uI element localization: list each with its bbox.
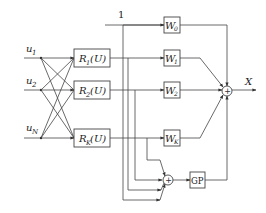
svg-text:2: 2 [31,81,37,89]
svg-text:0: 0 [174,25,178,32]
svg-text:N: N [31,128,39,136]
svg-text:1: 1 [32,49,36,57]
rbf-block-K: R K (U) [74,129,110,147]
rbf-network-diagram: u 1 u 2 u N R 1 (U) R 2 (U) [0,0,266,213]
input-u2-label: u 2 [26,75,37,89]
rbf-block-1: R 1 (U) [74,49,110,67]
weight-block-1: W 1 [164,50,180,66]
output-summer: + [222,86,232,96]
svg-text:(U): (U) [90,53,106,64]
svg-text:(U): (U) [90,133,106,144]
svg-text:+: + [224,87,231,96]
output-label: X [244,76,253,87]
svg-text:K: K [173,138,179,145]
svg-text:1: 1 [174,58,178,65]
input-uN-label: u N [26,122,39,136]
svg-text:2: 2 [173,90,178,97]
weight-block-K: W K [164,130,180,146]
gp-block: GP [190,172,205,188]
svg-text:GP: GP [191,176,204,186]
svg-text:(U): (U) [90,85,106,96]
bias-label: 1 [118,9,124,20]
input-u1-label: u 1 [26,43,36,57]
rbf-block-2: R 2 (U) [74,81,110,99]
svg-text:+: + [165,176,172,185]
weight-block-2: W 2 [164,82,180,98]
gp-summer: + [163,175,173,185]
weight-block-0: W 0 [164,17,180,33]
weight-output-lines [180,25,227,180]
